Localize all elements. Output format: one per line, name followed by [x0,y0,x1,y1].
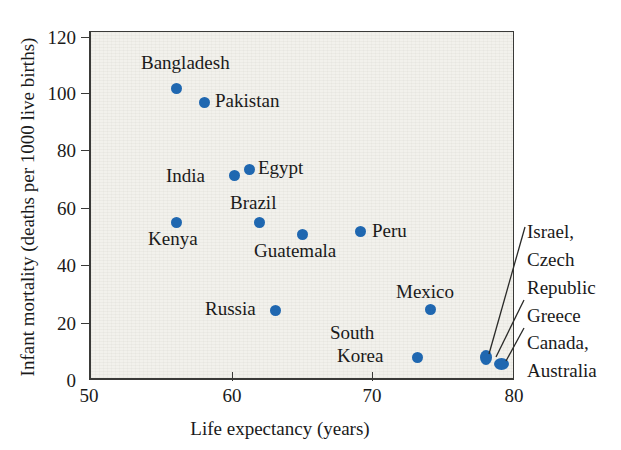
data-point-india [229,170,240,181]
y-tick-120 [81,37,90,38]
point-label-mexico: Mexico [396,281,454,302]
callout-label-republic: Republic [527,276,596,299]
data-point-egypt [244,164,255,175]
x-tick-label-80: 80 [489,386,539,405]
x-tick-label-50: 50 [64,386,114,405]
data-point-kenya [171,217,182,228]
callout-label-israel: Israel, [527,220,574,243]
point-label-india: India [166,165,205,186]
point-label-brazil: Brazil [230,192,276,213]
point-label-south: South [330,322,374,343]
data-point-israel-czech-greece [480,350,492,365]
y-tick-80 [81,150,90,151]
y-tick-100 [81,93,90,94]
plot-area [89,31,514,380]
point-label-bangladesh: Bangladesh [141,52,230,73]
y-tick-60 [81,208,90,209]
callout-label-canada: Canada, [527,331,589,354]
callout-label-australia: Australia [527,359,597,382]
callout-label-czech: Czech [527,248,574,271]
scatter-plot-figure: 120 100 80 60 40 20 0 50 60 70 80 Life e… [0,0,621,450]
data-point-south-korea [412,352,423,363]
data-point-bangladesh [171,83,182,94]
point-label-pakistan: Pakistan [215,90,279,111]
y-tick-40 [81,265,90,266]
plot-background-texture [91,32,513,378]
point-label-guatemala: Guatemala [254,240,336,261]
x-tick-70 [372,372,373,381]
y-axis-title: Infant mortality (deaths per 1000 live b… [17,7,39,407]
x-tick-label-60: 60 [207,386,257,405]
data-point-peru [355,226,366,237]
data-point-canada-australia [494,358,509,370]
data-point-mexico [425,304,436,315]
point-label-egypt: Egypt [258,157,303,178]
data-point-pakistan [199,97,210,108]
x-axis-title: Life expectancy (years) [0,418,560,440]
y-tick-20 [81,323,90,324]
callout-label-greece: Greece [527,304,581,327]
x-tick-60 [232,372,233,381]
x-tick-label-70: 70 [347,386,397,405]
point-label-russia: Russia [205,298,256,319]
point-label-korea: Korea [337,345,383,366]
data-point-guatemala [297,229,308,240]
point-label-kenya: Kenya [148,228,198,249]
data-point-brazil [254,217,265,228]
point-label-peru: Peru [372,220,407,241]
data-point-russia [270,305,281,316]
